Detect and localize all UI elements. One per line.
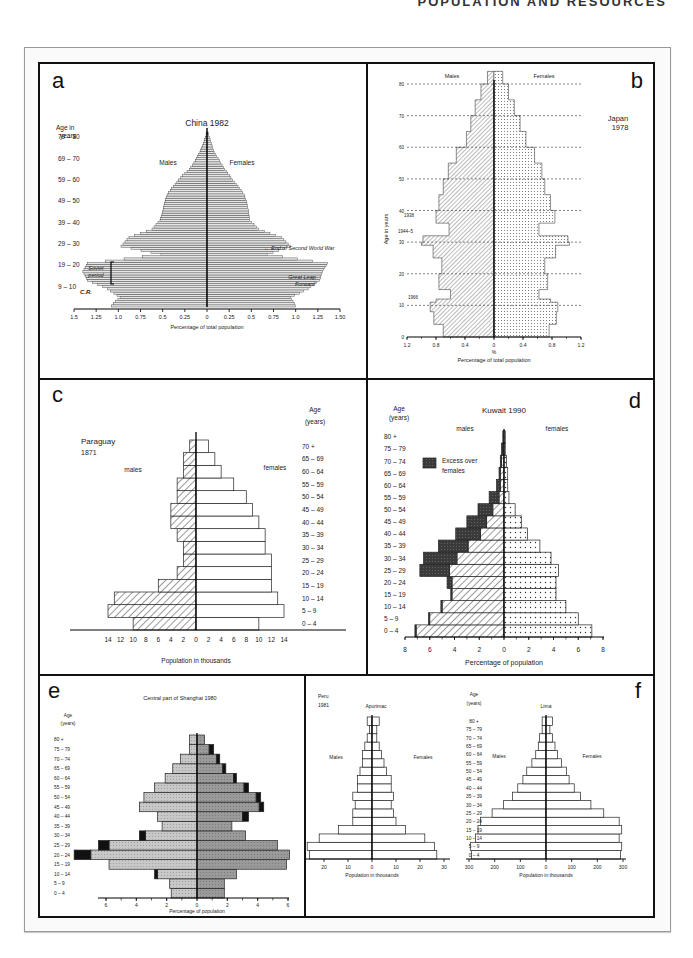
female-bar [207,181,234,183]
age-category: 5 – 9 [302,607,317,614]
male-bar [457,552,504,564]
male-bar [141,249,207,251]
males-label: Males [329,754,343,760]
panel-f-peru: f 302010010203030020010001002003000 – 45… [306,676,653,916]
male-bar [540,734,546,742]
female-bar [207,202,247,204]
female-bar [546,826,622,834]
panel-letter: d [629,388,641,414]
male-bar [173,764,197,774]
female-bar [207,211,249,213]
x-axis-title: Percentage of population [169,908,225,914]
male-bar [452,589,504,601]
legend-label: Excess over [442,457,478,464]
male-bar [175,183,207,185]
male-bar [177,529,196,542]
female-bar [207,230,264,232]
female-bar [504,576,556,588]
y-axis-title: Age [64,713,73,718]
female-excess-bar [244,783,249,793]
age-tick: 49 – 50 [58,197,80,204]
age-category: 25 – 29 [466,811,482,816]
x-tick: 6 [232,636,236,643]
female-bar [372,851,437,859]
male-bar [133,617,196,630]
female-bar [207,183,236,185]
age-category: 65 – 69 [54,766,70,771]
age-category: 0 – 4 [469,853,480,858]
male-bar [129,237,207,239]
female-bar [196,478,234,491]
male-bar [158,222,207,224]
male-bar [166,196,207,198]
male-bar [116,301,207,303]
male-bar [156,224,207,226]
x-tick: 10 [393,864,399,870]
age-category: 30 – 34 [54,833,70,838]
age-category: 70 – 74 [466,736,482,741]
age-category: 15 – 19 [54,862,70,867]
male-bar [164,207,207,209]
male-bar [310,851,372,859]
age-category: 60 – 64 [302,468,324,475]
x-tick: 0 [194,636,198,643]
y-axis-title: (years) [389,414,409,422]
male-bar [165,200,207,202]
female-bar [546,742,555,750]
x-tick: 0.25 [179,314,190,320]
male-bar [201,149,207,151]
age-category: 45 – 49 [466,777,482,782]
female-excess-bar [233,773,236,783]
female-bar [196,491,246,504]
running-head: POPULATION AND RESOURCES [417,0,667,9]
x-axis-title: Percentage of population [465,659,543,667]
y-axis-title: (years) [61,721,76,726]
male-bar [164,202,207,204]
male-bar [319,834,372,842]
chart-china-1982: China 1982Age inyearsMalesFemales79 – 80… [40,64,366,378]
age-category: 80 + [384,433,397,440]
female-bar [207,153,215,155]
age-tick: 69 – 70 [58,155,80,162]
male-excess-bar [415,625,416,637]
female-bar [504,625,592,637]
female-bar [546,784,574,792]
female-bar [504,552,551,564]
age-tick: 10 [399,303,405,308]
male-bar [86,264,207,266]
female-bar [196,541,265,554]
female-bar [372,826,406,834]
male-excess-bar [74,850,91,860]
male-bar [172,187,207,189]
females-label: Females [533,73,554,79]
female-bar [197,869,236,879]
x-tick: 8 [601,646,605,653]
male-bar [123,243,207,245]
female-bar [207,296,290,298]
female-bar [207,294,295,296]
female-bar [546,767,567,775]
annotation-soviet: Soviet [88,265,104,271]
chart-kuwait-1990: 0 – 45 – 910 – 1415 – 1920 – 2425 – 2930… [368,380,653,674]
age-category: 60 – 64 [54,776,70,781]
male-area [422,71,495,337]
x-tick: 12 [268,636,276,643]
female-bar [196,516,259,529]
female-bar [207,173,228,175]
male-bar [365,742,372,750]
female-bar [504,601,566,613]
male-bar [106,260,207,262]
age-tick: 59 – 60 [58,176,80,183]
x-tick: 4 [256,902,259,908]
age-category: 55 – 59 [302,481,324,488]
x-axis-title: Population in thousands [519,872,573,878]
age-category: 40 – 44 [466,786,482,791]
male-bar [158,812,197,822]
y-axis-title: Age [393,405,405,413]
male-bar [478,826,546,834]
female-bar [372,717,379,725]
male-excess-bar [467,516,487,528]
male-bar [177,478,196,491]
female-bar [504,564,558,576]
female-bar [546,717,552,725]
